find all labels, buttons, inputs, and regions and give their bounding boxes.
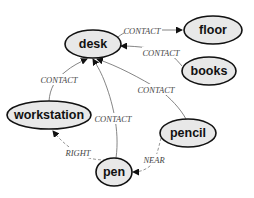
node-label-pen: pen <box>103 165 125 179</box>
edge-label-pencil-pen: NEAR <box>142 155 165 165</box>
node-label-desk: desk <box>79 37 108 51</box>
edge-label-desk-floor: CONTACT <box>123 26 161 36</box>
node-label-workstation: workstation <box>13 108 84 122</box>
edge-label-pen-workstation: RIGHT <box>64 148 91 158</box>
edge-label-books-desk: CONTACT <box>142 48 180 58</box>
node-desk: desk <box>65 30 121 58</box>
node-books: books <box>182 57 236 85</box>
node-pen: pen <box>96 158 132 186</box>
scene-graph-diagram: CONTACT CONTACT CONTACT CONTACT CONTACT … <box>0 0 254 198</box>
node-label-pencil: pencil <box>170 126 206 140</box>
edge-label-pen-desk: CONTACT <box>94 114 132 124</box>
node-label-books: books <box>191 64 228 78</box>
node-label-floor: floor <box>199 23 227 37</box>
node-pencil: pencil <box>160 119 216 147</box>
edge-label-pencil-desk: CONTACT <box>137 85 175 95</box>
edge-pen-desk <box>93 59 117 158</box>
node-floor: floor <box>184 16 242 44</box>
edge-label-workstation-desk: CONTACT <box>40 75 78 85</box>
node-workstation: workstation <box>7 101 91 129</box>
